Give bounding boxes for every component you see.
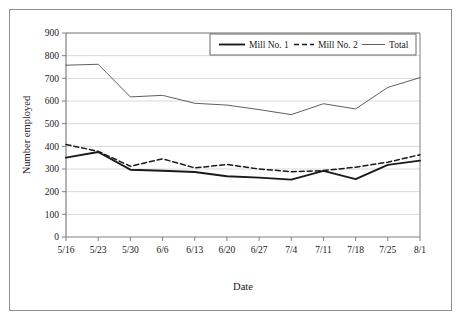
x-tick-label: 7/25 xyxy=(379,245,396,255)
x-tick-label: 6/20 xyxy=(218,245,235,255)
series-line-total xyxy=(66,64,420,114)
y-tick-label: 200 xyxy=(45,187,60,197)
legend-label-3: Total xyxy=(389,40,409,50)
x-tick-label: 5/16 xyxy=(58,245,75,255)
y-tick-label: 800 xyxy=(45,51,60,61)
y-tick-label: 500 xyxy=(45,119,60,129)
y-tick-label: 0 xyxy=(54,232,59,242)
chart-figure: 01002003004005006007008009005/165/235/30… xyxy=(0,0,461,320)
x-tick-label: 5/23 xyxy=(90,245,107,255)
x-tick-label: 8/1 xyxy=(414,245,426,255)
y-tick-label: 100 xyxy=(45,210,60,220)
legend-label-2: Mill No. 2 xyxy=(318,40,358,50)
x-tick-label: 5/30 xyxy=(122,245,139,255)
grid-lines xyxy=(66,33,420,214)
y-axis-ticks: 0100200300400500600700800900 xyxy=(45,28,66,242)
y-tick-label: 700 xyxy=(45,74,60,84)
x-tick-label: 6/6 xyxy=(156,245,168,255)
line-chart: 01002003004005006007008009005/165/235/30… xyxy=(0,0,461,320)
x-tick-label: 6/13 xyxy=(186,245,203,255)
chart-legend: Mill No. 1Mill No. 2Total xyxy=(210,34,416,55)
x-tick-label: 7/11 xyxy=(315,245,332,255)
legend-label-1: Mill No. 1 xyxy=(249,40,289,50)
y-tick-label: 600 xyxy=(45,96,60,106)
x-tick-label: 7/4 xyxy=(285,245,297,255)
y-tick-label: 400 xyxy=(45,142,60,152)
y-axis-title: Number employed xyxy=(21,95,32,174)
y-tick-label: 900 xyxy=(45,28,60,38)
y-tick-label: 300 xyxy=(45,164,60,174)
x-axis-ticks: 5/165/235/306/66/136/206/277/47/117/187/… xyxy=(58,237,427,255)
x-tick-label: 6/27 xyxy=(251,245,268,255)
series-line-mill-no-2 xyxy=(66,145,420,172)
x-axis-title: Date xyxy=(233,281,253,292)
x-tick-label: 7/18 xyxy=(347,245,364,255)
data-series-group xyxy=(66,64,420,179)
